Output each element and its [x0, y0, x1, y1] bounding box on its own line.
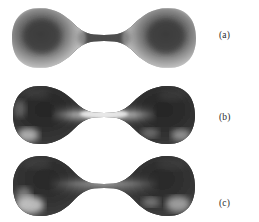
panel-a-field [10, 6, 198, 70]
panel-label-b: (b) [219, 112, 231, 122]
figure-panel-c: (c) [0, 153, 259, 219]
panel-c-field [10, 153, 198, 219]
panel-c-svg [10, 153, 198, 219]
panel-label-a: (a) [219, 30, 230, 40]
panel-c-image [10, 153, 198, 219]
panel-label-c: (c) [219, 198, 230, 208]
panel-b-svg [10, 83, 198, 147]
panel-a-svg [10, 6, 198, 70]
panel-b-image [10, 83, 198, 147]
figure-panel-a: (a) [0, 6, 259, 70]
figure-root: (a) [0, 0, 259, 222]
figure-panel-b: (b) [0, 83, 259, 147]
panel-b-field [10, 83, 198, 147]
panel-a-image [10, 6, 198, 70]
